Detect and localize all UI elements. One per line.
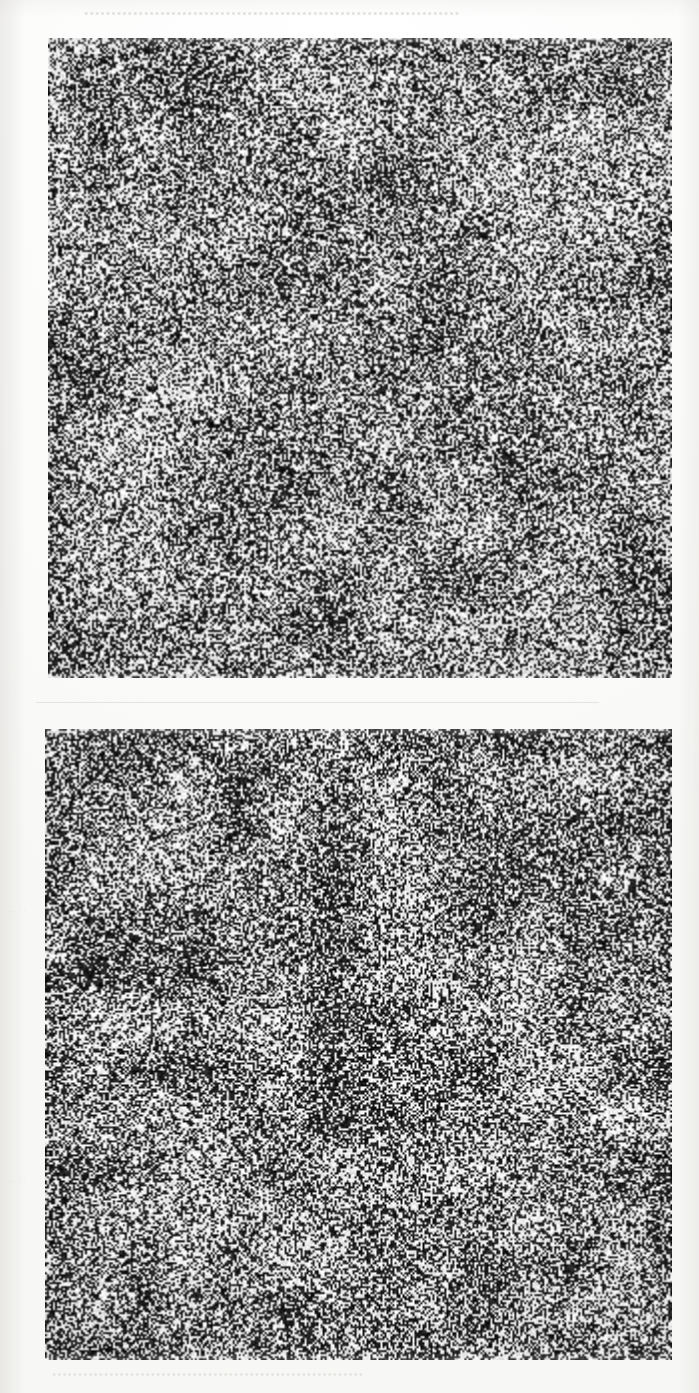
stereogram-panel-bottom: [45, 729, 672, 1360]
stereogram-canvas-bottom: [45, 729, 672, 1360]
stereogram-canvas-top: [48, 38, 672, 678]
stereogram-panel-top: [48, 38, 672, 678]
scanned-page: ••••••••••••••••••••••••••••••••••••••••…: [0, 0, 699, 1393]
